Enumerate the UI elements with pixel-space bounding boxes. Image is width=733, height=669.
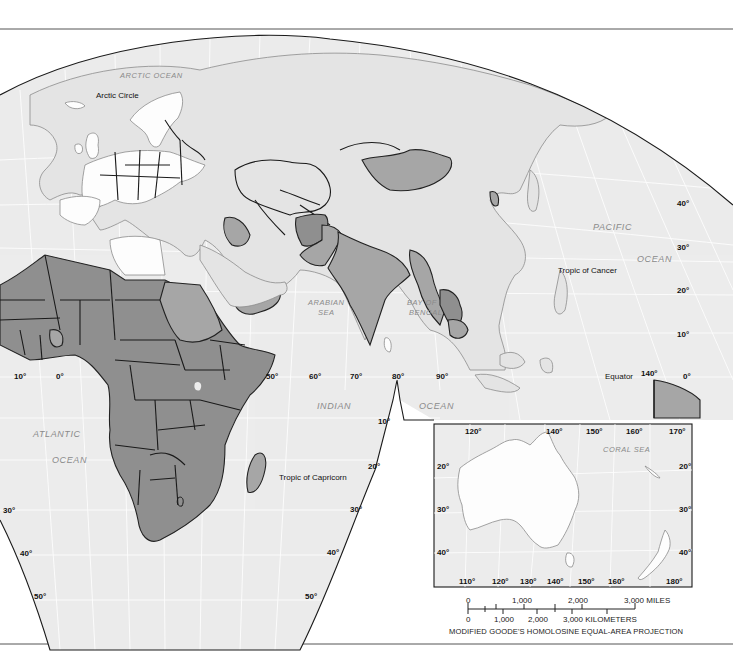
lat-label-30s-east: 30° [350,505,362,514]
lat-label-40s-east: 40° [327,548,339,557]
inset-lon-110-bottom: 110° [459,577,475,586]
arabian-sea-label-1: ARABIAN [307,298,345,307]
indian-ocean-label-1: INDIAN [317,401,351,411]
lon-label-0: 0° [56,372,64,381]
ireland [75,144,83,154]
inset-lon-160-top: 160° [626,427,643,436]
lat-label-50s-east: 50° [305,592,317,601]
lon-label-70e: 70° [350,372,362,381]
lon-label-50e: 50° [266,372,278,381]
equator-label: Equator [605,372,633,381]
lon-label-60e: 60° [309,372,321,381]
pacific-label-1: PACIFIC [593,222,632,232]
atlantic-ocean-label-2: OCEAN [52,455,87,465]
lat-label-20n: 20° [677,286,689,295]
ghana-region [50,330,63,347]
arctic-ocean-label: ARCTIC OCEAN [119,71,183,80]
inset-lon-140-bottom: 140° [547,577,564,586]
lon-label-140e: 140° [641,369,658,378]
scale-miles-1000: 1,000 [512,596,533,605]
scale-km-1000: 1,000 [494,615,515,624]
inset-lat-20-right: 20° [679,462,691,471]
inset-lon-160-bottom: 160° [608,577,625,586]
inset-lat-40-left: 40° [437,548,449,557]
indian-ocean-label-2: OCEAN [419,401,454,411]
inset-lon-140-top: 140° [546,427,563,436]
pacific-label-2: OCEAN [637,254,672,264]
lat-label-10n: 10° [677,330,689,339]
bay-of-bengal-label-2: BENGAL [409,308,442,317]
inset-lon-150-bottom: 150° [578,577,595,586]
lat-label-40s-west: 40° [20,549,32,558]
lon-label-80e: 80° [392,372,404,381]
scale-km-3000: 3,000 KILOMETERS [563,615,637,624]
lon-label-90e: 90° [436,372,448,381]
tropic-of-cancer-label: Tropic of Cancer [558,266,617,275]
inset-lon-130-bottom: 130° [520,577,537,586]
inset-lon-150-top: 150° [586,427,603,436]
scale-km-0: 0 [466,615,471,624]
arctic-circle-label: Arctic Circle [96,91,139,100]
british-isles [86,133,99,158]
lat-label-30n: 30° [677,243,689,252]
scale-miles-3000: 3,000 MILES [624,596,670,605]
australia-inset: 120° 140° 150° 160° 170° CORAL SEA 20° 3… [434,424,692,587]
inset-lon-120-bottom: 120° [492,577,509,586]
inset-lat-30-left: 30° [437,505,449,514]
coral-sea-label: CORAL SEA [603,445,650,454]
lat-label-50s-west: 50° [34,592,46,601]
lake-victoria [194,382,201,390]
scale-bar: 0 1,000 2,000 3,000 MILES 0 1,000 2,000 … [449,596,683,636]
inset-lon-170-top: 170° [669,427,686,436]
bay-of-bengal-label-1: BAY OF [407,298,437,307]
inset-lon-120-top: 120° [465,427,482,436]
scale-miles-2000: 2,000 [568,596,589,605]
atlantic-ocean-label-1: ATLANTIC [32,429,81,439]
inset-lat-30-right: 30° [679,505,691,514]
lon-label-0-right: 0° [683,372,691,381]
lat-label-10s: 10° [378,417,390,426]
arabian-sea-label-2: SEA [318,308,335,317]
inset-lon-180-bottom: 180° [666,577,683,586]
tropic-of-capricorn-label: Tropic of Capricorn [279,473,347,482]
lat-label-30s-west: 30° [3,506,15,515]
lat-label-20s: 20° [368,462,380,471]
inset-lat-20-left: 20° [437,462,449,471]
tasmania [566,553,574,567]
inset-lat-40-right: 40° [679,548,691,557]
scale-km-2000: 2,000 [528,615,549,624]
map-figure: ARCTIC OCEAN Arctic Circle PACIFIC OCEAN… [0,0,733,669]
projection-caption: MODIFIED GOODE'S HOMOLOSINE EQUAL-AREA P… [449,627,683,636]
lat-label-40n: 40° [677,199,689,208]
lon-label-10w: 10° [14,372,26,381]
